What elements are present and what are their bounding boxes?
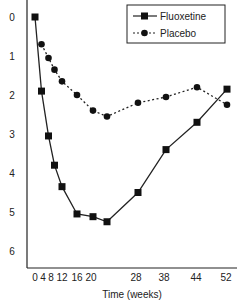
data-point xyxy=(104,113,111,120)
data-point xyxy=(59,78,66,85)
data-point xyxy=(194,84,201,91)
data-point xyxy=(194,119,201,126)
legend-fluoxetine: Fluoxetine xyxy=(160,11,207,22)
data-point xyxy=(104,218,111,225)
data-point xyxy=(90,213,97,220)
y-tick-label: 6 xyxy=(9,246,15,257)
y-tick-label: 0 xyxy=(9,12,15,23)
x-tick-label: 16 xyxy=(71,272,83,283)
x-tick-label: 8 xyxy=(48,272,54,283)
data-point xyxy=(135,100,142,107)
data-point xyxy=(38,88,45,95)
data-point xyxy=(74,210,81,217)
legend-placebo: Placebo xyxy=(160,28,197,39)
data-point xyxy=(51,66,58,73)
data-point xyxy=(74,92,81,99)
y-tick-label: 1 xyxy=(9,51,15,62)
x-tick-label: 0 xyxy=(32,272,38,283)
data-point xyxy=(163,146,170,153)
circle-marker-icon xyxy=(141,30,148,37)
data-point xyxy=(163,94,170,101)
series-fluoxetine xyxy=(32,14,231,226)
data-point xyxy=(224,86,231,93)
data-point xyxy=(224,101,231,108)
data-point xyxy=(90,107,97,114)
series-placebo xyxy=(38,41,230,120)
x-tick-labels: 04812162028384452 xyxy=(32,272,232,283)
data-point xyxy=(45,132,52,139)
data-point xyxy=(135,189,142,196)
y-tick-label: 4 xyxy=(9,168,15,179)
x-tick-label: 52 xyxy=(220,272,232,283)
x-tick-label: 44 xyxy=(190,272,202,283)
line-chart: 0123456 04812162028384452 Time (weeks) F… xyxy=(0,0,237,302)
x-tick-label: 4 xyxy=(40,272,46,283)
x-tick-label: 28 xyxy=(130,272,142,283)
x-tick-label: 12 xyxy=(56,272,68,283)
data-point xyxy=(59,183,66,190)
square-marker-icon xyxy=(141,13,148,20)
y-tick-labels: 0123456 xyxy=(9,12,15,257)
data-point xyxy=(45,55,52,62)
y-tick-label: 5 xyxy=(9,207,15,218)
data-point xyxy=(32,14,39,21)
data-point xyxy=(38,41,45,48)
x-tick-label: 38 xyxy=(158,272,170,283)
data-point xyxy=(51,162,58,169)
y-tick-label: 3 xyxy=(9,129,15,140)
x-tick-label: 20 xyxy=(85,272,97,283)
x-axis-label: Time (weeks) xyxy=(102,289,162,300)
legend: Fluoxetine Placebo xyxy=(127,5,225,43)
y-tick-label: 2 xyxy=(9,90,15,101)
